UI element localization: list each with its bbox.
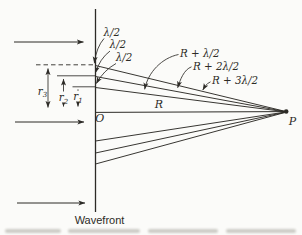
zone-line-r1 (96, 88, 285, 112)
cropped-caption-smudge-1 (5, 229, 61, 233)
central-axis-line (96, 112, 285, 113)
r3-label: r3 (38, 85, 48, 100)
lambda-half-label-3: λ/2 (115, 51, 133, 63)
wavefront-caption: Wavefront (75, 214, 125, 226)
lower-zone-line-3 (96, 113, 285, 164)
cropped-caption-smudge-3 (148, 229, 218, 233)
lower-zone-line-1 (96, 112, 285, 141)
cropped-caption-smudge-4 (226, 229, 296, 233)
path-length-label-1: R + λ/2 (179, 47, 219, 59)
fresnel-zones-diagram: r3 r2 r1 λ/2 λ/2 λ/2 R + λ/2 R + 2λ/2 R … (0, 0, 302, 235)
lambda-half-label-2: λ/2 (109, 38, 127, 50)
observation-point-label: P (288, 115, 297, 128)
path-length-leader-3 (203, 82, 211, 90)
path-length-label-2: R + 2λ/2 (192, 60, 239, 72)
axis-distance-label: R (154, 98, 163, 111)
path-length-leader-2 (178, 67, 192, 88)
path-length-label-3: R + 3λ/2 (211, 74, 258, 86)
lower-zone-line-2 (96, 112, 285, 153)
origin-label: O (95, 112, 104, 125)
lambda-half-label-1: λ/2 (103, 26, 121, 38)
fresnel-zones-figure: r3 r2 r1 λ/2 λ/2 λ/2 R + λ/2 R + 2λ/2 R … (0, 0, 302, 235)
cropped-caption-smudge-2 (68, 229, 140, 233)
point-p-dot (284, 109, 289, 114)
zone-line-r3 (96, 66, 285, 112)
